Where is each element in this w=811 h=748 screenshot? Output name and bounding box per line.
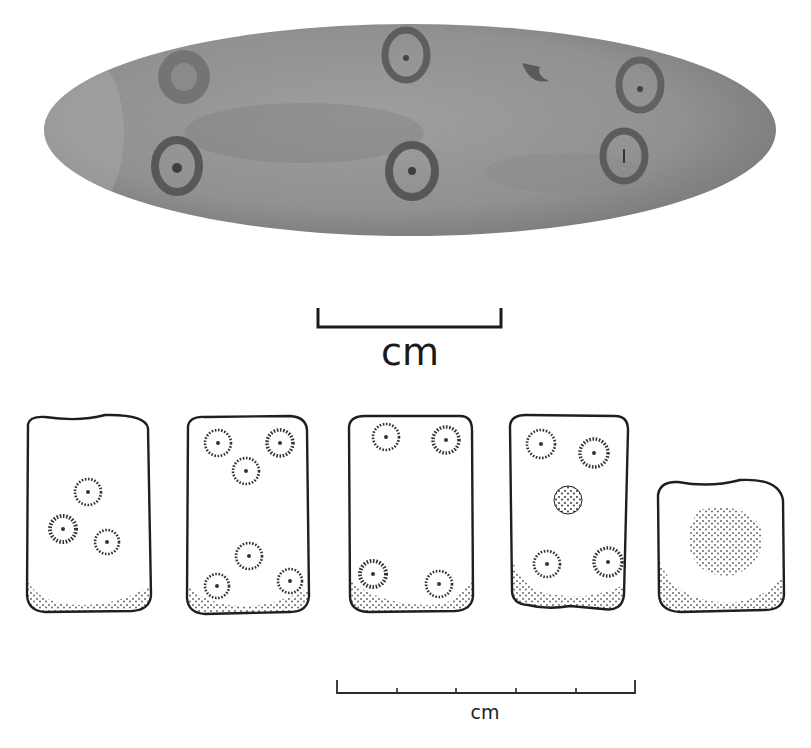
- die-drawing-2: [187, 416, 309, 614]
- die-drawing-3: [349, 416, 473, 612]
- die-drawing-1: [27, 415, 151, 612]
- oval-object-photo: [44, 23, 776, 237]
- die-drawing-5: [658, 480, 784, 612]
- scale-bar-bottom-label: cm: [440, 700, 530, 724]
- ring-dot-mark: [158, 50, 210, 104]
- die-drawing-4: [510, 415, 628, 609]
- scale-bar-top: [315, 306, 505, 332]
- stone-body: [44, 24, 776, 236]
- dice-drawings: .outline{fill:#fff;stroke:#1f1f1f;stroke…: [0, 400, 811, 630]
- scale-bar-top-label: cm: [340, 330, 480, 374]
- scale-bar-bottom: [335, 678, 639, 698]
